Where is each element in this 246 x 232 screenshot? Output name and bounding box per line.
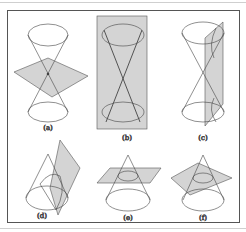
panel-f-plane [171, 163, 232, 195]
panel-f-base-ellipse [182, 189, 224, 211]
panel-f-label: (f) [199, 214, 207, 222]
panel-b: (b) [97, 16, 147, 142]
panel-a-vertex [47, 73, 49, 75]
conic-sections-diagram: (a) (b) (c) [0, 0, 246, 232]
panel-a-plane [14, 58, 88, 97]
panel-d-plane [50, 140, 80, 215]
panel-a-bottom-ellipse [28, 102, 68, 122]
panel-b-plane [97, 16, 147, 129]
panel-a-label: (a) [43, 124, 53, 132]
panel-e: (e) [97, 155, 161, 222]
panel-c-plane [205, 22, 223, 126]
panel-b-label: (b) [122, 134, 132, 142]
panel-f: (f) [171, 155, 232, 222]
panel-d-label: (d) [37, 212, 47, 220]
panel-e-label: (e) [123, 214, 133, 222]
panel-a-top-ellipse [28, 24, 68, 46]
panel-e-base-ellipse [106, 189, 150, 211]
panel-c-label: (c) [198, 134, 208, 142]
panel-a: (a) [14, 24, 88, 132]
panel-c: (c) [182, 22, 224, 142]
panel-d: (d) [26, 140, 80, 220]
panel-c-bottom-ellipse [182, 102, 224, 122]
